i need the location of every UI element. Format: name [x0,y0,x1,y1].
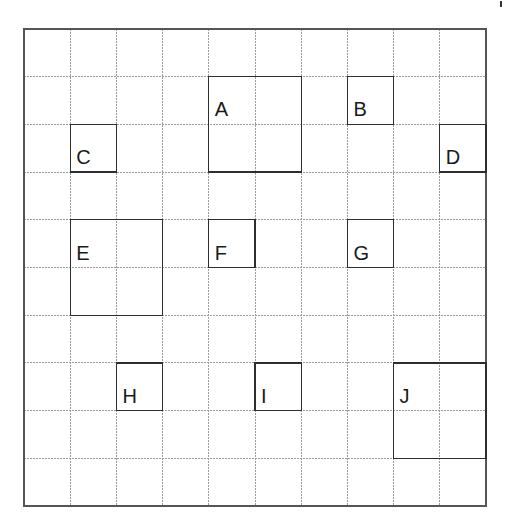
region-box-d: D [440,124,486,172]
region-label: F [215,242,227,264]
grid-diagram: ABCDEFGHIJ [0,0,508,532]
region-box-h: H [116,363,162,411]
region-label: G [353,242,369,264]
region-label: J [400,385,410,407]
region-box-f: F [209,220,255,268]
region-label: B [353,98,366,120]
region-label: C [76,146,90,168]
region-label: A [215,98,229,120]
region-box-g: G [347,220,393,268]
region-box-c: C [70,124,116,172]
region-label: E [76,242,89,264]
region-box-i: I [255,363,301,411]
region-box-b: B [347,77,393,125]
region-label: I [261,385,267,407]
region-label: H [122,385,136,407]
region-label: D [446,146,460,168]
